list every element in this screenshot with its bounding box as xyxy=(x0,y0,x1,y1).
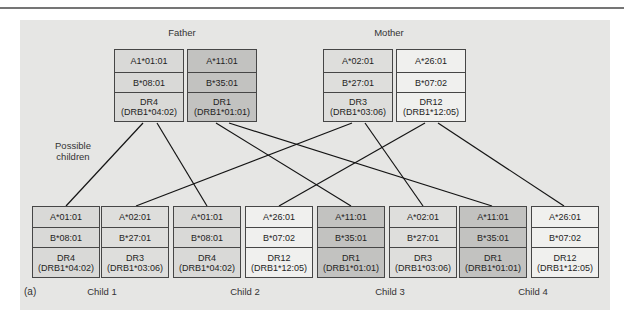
hla-dr-value: DR4 xyxy=(140,97,158,107)
hla-b-value: B*07:02 xyxy=(397,73,465,93)
hla-a-value: A*02:01 xyxy=(390,207,456,228)
hla-drb1-value: (DRB1*12:05) xyxy=(251,263,307,273)
hla-dr-cell: DR1 (DRB1*01:01) xyxy=(460,248,526,277)
hla-a-value: A*11:01 xyxy=(188,50,256,73)
hla-dr-value: DR4 xyxy=(198,253,216,263)
hla-b-value: B*35:01 xyxy=(318,228,384,248)
hla-drb1-value: (DRB1*03:06) xyxy=(330,107,386,117)
child1-maternal-haplotype-box: A*02:01 B*27:01 DR3 (DRB1*03:06) xyxy=(101,206,169,278)
child2-paternal-haplotype-box: A*01:01 B*08:01 DR4 (DRB1*04:02) xyxy=(173,206,241,278)
hla-dr-value: DR1 xyxy=(484,253,502,263)
hla-b-value: B*35:01 xyxy=(188,73,256,93)
mother-haplotype-2-box: A*26:01 B*07:02 DR12 (DRB1*12:05) xyxy=(396,49,466,122)
hla-a-value: A*11:01 xyxy=(460,207,526,228)
father-label: Father xyxy=(152,27,212,38)
hla-dr-value: DR12 xyxy=(553,253,576,263)
hla-drb1-value: (DRB1*03:06) xyxy=(107,263,163,273)
child-3-label: Child 3 xyxy=(350,286,430,297)
hla-dr-value: DR3 xyxy=(414,253,432,263)
child3-paternal-haplotype-box: A*11:01 B*35:01 DR1 (DRB1*01:01) xyxy=(317,206,385,278)
hla-a-value: A*02:01 xyxy=(324,50,392,73)
hla-dr-value: DR4 xyxy=(57,253,75,263)
child-1-label: Child 1 xyxy=(62,286,142,297)
hla-dr-cell: DR3 (DRB1*03:06) xyxy=(324,93,392,121)
hla-dr-cell: DR4 (DRB1*04:02) xyxy=(33,248,99,277)
hla-a-value: A*26:01 xyxy=(246,207,312,228)
hla-a-value: A*26:01 xyxy=(397,50,465,73)
top-rule-divider xyxy=(0,7,624,9)
hla-dr-value: DR1 xyxy=(213,97,231,107)
hla-drb1-value: (DRB1*01:01) xyxy=(194,107,250,117)
hla-dr-value: DR12 xyxy=(267,253,290,263)
hla-dr-value: DR3 xyxy=(126,253,144,263)
hla-dr-cell: DR12 (DRB1*12:05) xyxy=(397,93,465,121)
hla-dr-value: DR3 xyxy=(349,97,367,107)
hla-b-value: B*35:01 xyxy=(460,228,526,248)
hla-drb1-value: (DRB1*12:05) xyxy=(403,107,459,117)
hla-b-value: B*07:02 xyxy=(532,228,598,248)
figure-page: { "page": { "panel_label": "(a)" }, "par… xyxy=(0,0,624,327)
panel-letter-label: (a) xyxy=(24,286,44,297)
child3-maternal-haplotype-box: A*02:01 B*27:01 DR3 (DRB1*03:06) xyxy=(389,206,457,278)
hla-drb1-value: (DRB1*12:05) xyxy=(537,263,593,273)
child4-paternal-haplotype-box: A*11:01 B*35:01 DR1 (DRB1*01:01) xyxy=(459,206,527,278)
child2-maternal-haplotype-box: A*26:01 B*07:02 DR12 (DRB1*12:05) xyxy=(245,206,313,278)
hla-a-value: A*01:01 xyxy=(33,207,99,228)
hla-a-value: A*26:01 xyxy=(532,207,598,228)
hla-a-value: A*02:01 xyxy=(102,207,168,228)
hla-b-value: B*08:01 xyxy=(174,228,240,248)
hla-dr-value: DR12 xyxy=(419,97,442,107)
child1-paternal-haplotype-box: A*01:01 B*08:01 DR4 (DRB1*04:02) xyxy=(32,206,100,278)
hla-drb1-value: (DRB1*04:02) xyxy=(121,107,177,117)
hla-b-value: B*27:01 xyxy=(102,228,168,248)
mother-haplotype-1-box: A*02:01 B*27:01 DR3 (DRB1*03:06) xyxy=(323,49,393,122)
hla-b-value: B*27:01 xyxy=(324,73,392,93)
hla-drb1-value: (DRB1*04:02) xyxy=(38,263,94,273)
father-haplotype-2-box: A*11:01 B*35:01 DR1 (DRB1*01:01) xyxy=(187,49,257,122)
hla-dr-cell: DR3 (DRB1*03:06) xyxy=(390,248,456,277)
child4-maternal-haplotype-box: A*26:01 B*07:02 DR12 (DRB1*12:05) xyxy=(531,206,599,278)
hla-b-value: B*07:02 xyxy=(246,228,312,248)
hla-b-value: B*08:01 xyxy=(33,228,99,248)
child-2-label: Child 2 xyxy=(205,286,285,297)
possible-children-label: Possible children xyxy=(42,140,104,162)
child-4-label: Child 4 xyxy=(493,286,573,297)
hla-drb1-value: (DRB1*03:06) xyxy=(395,263,451,273)
hla-dr-value: DR1 xyxy=(342,253,360,263)
hla-drb1-value: (DRB1*01:01) xyxy=(465,263,521,273)
hla-a-value: A1*01:01 xyxy=(115,50,183,73)
mother-label: Mother xyxy=(359,27,419,38)
hla-dr-cell: DR12 (DRB1*12:05) xyxy=(532,248,598,277)
hla-dr-cell: DR4 (DRB1*04:02) xyxy=(115,93,183,121)
hla-drb1-value: (DRB1*04:02) xyxy=(179,263,235,273)
hla-dr-cell: DR4 (DRB1*04:02) xyxy=(174,248,240,277)
hla-a-value: A*01:01 xyxy=(174,207,240,228)
hla-drb1-value: (DRB1*01:01) xyxy=(323,263,379,273)
hla-dr-cell: DR1 (DRB1*01:01) xyxy=(318,248,384,277)
hla-dr-cell: DR12 (DRB1*12:05) xyxy=(246,248,312,277)
hla-dr-cell: DR1 (DRB1*01:01) xyxy=(188,93,256,121)
hla-b-value: B*08:01 xyxy=(115,73,183,93)
hla-a-value: A*11:01 xyxy=(318,207,384,228)
hla-b-value: B*27:01 xyxy=(390,228,456,248)
hla-dr-cell: DR3 (DRB1*03:06) xyxy=(102,248,168,277)
father-haplotype-1-box: A1*01:01 B*08:01 DR4 (DRB1*04:02) xyxy=(114,49,184,122)
